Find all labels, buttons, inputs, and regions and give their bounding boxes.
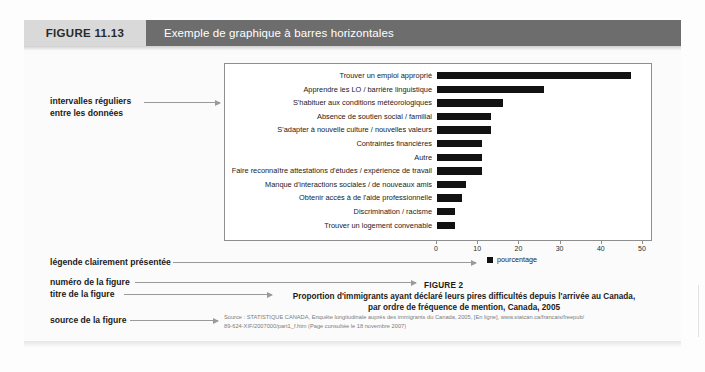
bar-row: Autre [224, 151, 652, 165]
leader-line-titre [124, 294, 272, 295]
bar [437, 86, 544, 93]
bar-category-label: Trouver un logement convenable [224, 222, 437, 229]
x-tick-mark [436, 240, 437, 244]
x-tick-mark [601, 240, 602, 244]
chart-area: Trouver un emploi appropriéApprendre les… [224, 63, 652, 263]
bar-row: Absence de soutien social / familial [224, 110, 652, 124]
bar-row: Discrimination / racisme [224, 205, 652, 219]
annotation-numero-figure: numéro de la figure [50, 277, 130, 289]
caption-title-line-1: Proportion d'immigrants ayant déclaré le… [280, 291, 648, 302]
panel-bottom-shadow [24, 341, 681, 348]
annotation-titre-line-1: titre de la figure [50, 289, 114, 301]
annotation-intervalles-reguliers: intervalles réguliers entre les données [50, 96, 131, 119]
source-line-1: Source : STATISTIQUE CANADA, Enquête lon… [224, 313, 644, 322]
leader-line-intervalles [144, 102, 220, 103]
bar [437, 140, 482, 147]
annotation-legende: légende clairement présentée [50, 257, 171, 269]
bar-track [437, 137, 643, 151]
caption-title-line-2: par ordre de fréquence de mention, Canad… [280, 302, 648, 313]
bar-category-label: Manque d'interactions sociales / de nouv… [224, 181, 437, 188]
bar [437, 113, 491, 120]
bar-row: Trouver un emploi approprié [224, 69, 652, 83]
bar-rows: Trouver un emploi appropriéApprendre les… [224, 69, 652, 232]
bar-category-label: Discrimination / racisme [224, 208, 437, 215]
source-line-2: 89-624-XIF/2007000/part1_f.htm (Page con… [224, 322, 644, 331]
figure-page: FIGURE 11.13 Exemple de graphique à barr… [0, 0, 705, 372]
bar [437, 167, 482, 174]
leader-line-numero [135, 282, 416, 283]
legend-swatch-icon [487, 257, 493, 263]
bar-category-label: Obtenir accès à de l'aide professionnell… [224, 194, 437, 201]
figure-title-box: Exemple de graphique à barres horizontal… [146, 20, 681, 46]
bar-track [437, 96, 643, 110]
annotation-numero-line-1: numéro de la figure [50, 277, 130, 289]
bar [437, 72, 631, 79]
bar-track [437, 110, 643, 124]
chart-legend: pourcentage [487, 255, 537, 264]
annotation-legende-line-1: légende clairement présentée [50, 257, 171, 269]
bar-row: S'habituer aux conditions météorologique… [224, 96, 652, 110]
bar-track [437, 69, 643, 83]
bar-row: Manque d'interactions sociales / de nouv… [224, 178, 652, 192]
bar [437, 194, 462, 201]
bar-category-label: Trouver un emploi approprié [224, 72, 437, 79]
bar [437, 181, 466, 188]
figure-header: FIGURE 11.13 Exemple de graphique à barr… [24, 20, 681, 46]
bar-track [437, 219, 643, 233]
x-tick-mark [560, 240, 561, 244]
x-tick-label: 50 [638, 245, 646, 252]
bar [437, 222, 455, 229]
leader-line-legende [173, 262, 476, 263]
bar-row: Apprendre les LO / barrière linguistique [224, 83, 652, 97]
leader-line-source [130, 320, 218, 321]
figure-title-label: Exemple de graphique à barres horizontal… [164, 27, 394, 39]
legend-label: pourcentage [497, 255, 537, 264]
bar-category-label: Faire reconnaître attestations d'études … [224, 167, 437, 174]
x-tick-label: 30 [556, 245, 564, 252]
x-tick-mark [642, 240, 643, 244]
bar-row: Contraintes financières [224, 137, 652, 151]
bar-category-label: S'habituer aux conditions météorologique… [224, 99, 437, 106]
bar [437, 208, 455, 215]
bar-category-label: Contraintes financières [224, 140, 437, 147]
bar-track [437, 83, 643, 97]
bar-track [437, 205, 643, 219]
annotation-intervalles-line-2: entre les données [50, 108, 131, 120]
annotation-intervalles-line-1: intervalles réguliers [50, 96, 131, 108]
caption-figure-title: Proportion d'immigrants ayant déclaré le… [280, 291, 648, 314]
bar-row: S'adapter à nouvelle culture / nouvelles… [224, 123, 652, 137]
annotation-titre-figure: titre de la figure [50, 289, 114, 301]
bar [437, 126, 491, 133]
bar-track [437, 178, 643, 192]
bar-row: Faire reconnaître attestations d'études … [224, 164, 652, 178]
x-tick-mark [477, 240, 478, 244]
x-axis-ticks: 01020304050 [436, 240, 642, 262]
x-tick-label: 40 [597, 245, 605, 252]
caption-figure-number: FIGURE 2 [424, 281, 463, 290]
page-edge-rule [698, 285, 699, 337]
bar-row: Trouver un logement convenable [224, 219, 652, 233]
bar-track [437, 164, 643, 178]
x-tick-mark [518, 240, 519, 244]
annotation-source-figure: source de la figure [50, 315, 126, 327]
bar [437, 99, 503, 106]
figure-number-box: FIGURE 11.13 [24, 20, 146, 46]
bar [437, 154, 482, 161]
bar-category-label: S'adapter à nouvelle culture / nouvelles… [224, 126, 437, 133]
x-tick-label: 10 [473, 245, 481, 252]
figure-number-label: FIGURE 11.13 [46, 27, 124, 39]
x-tick-label: 20 [514, 245, 522, 252]
bar-track [437, 123, 643, 137]
bar-category-label: Absence de soutien social / familial [224, 113, 437, 120]
bar-row: Obtenir accès à de l'aide professionnell… [224, 191, 652, 205]
figure-source: Source : STATISTIQUE CANADA, Enquête lon… [224, 313, 644, 331]
bar-track [437, 151, 643, 165]
bar-track [437, 191, 643, 205]
bar-category-label: Autre [224, 154, 437, 161]
annotation-source-line-1: source de la figure [50, 315, 126, 327]
bar-category-label: Apprendre les LO / barrière linguistique [224, 86, 437, 93]
x-tick-label: 0 [434, 245, 438, 252]
